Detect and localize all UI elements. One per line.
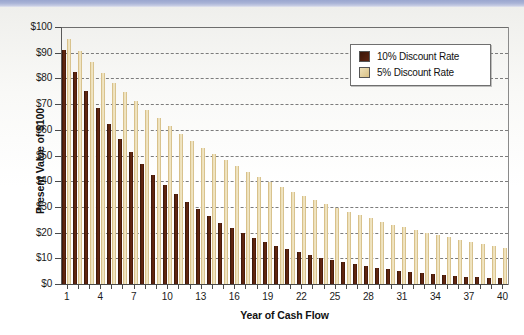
y-axis-tick-label: $0 [12,278,52,289]
bar-10-percent-year-12 [185,202,189,284]
bar-5-percent-year-19 [268,182,272,284]
legend-label-10-percent: 10% Discount Rate [377,51,459,62]
bar-5-percent-year-26 [347,212,351,284]
legend-item-5-percent: 5% Discount Rate [359,66,454,79]
bar-5-percent-year-40 [503,248,507,284]
bar-10-percent-year-24 [319,258,323,284]
bar-10-percent-year-21 [285,249,289,284]
bar-10-percent-year-11 [174,194,178,284]
plot-right-edge [508,27,509,285]
bar-10-percent-year-39 [487,278,491,284]
bar-10-percent-year-3 [84,91,88,284]
bar-10-percent-year-15 [218,223,222,284]
bar-5-percent-year-11 [179,134,183,284]
bar-5-percent-year-4 [101,73,105,285]
bar-5-percent-year-35 [447,237,451,284]
x-axis-title: Year of Cash Flow [61,309,508,321]
bar-5-percent-year-20 [280,187,284,284]
bar-10-percent-year-35 [442,275,446,284]
bar-5-percent-year-17 [246,172,250,284]
bar-10-percent-year-34 [431,274,435,284]
bar-5-percent-year-13 [201,148,205,284]
x-axis-tick-label: 7 [122,291,146,302]
bar-5-percent-year-15 [224,160,228,284]
bar-10-percent-year-2 [73,72,77,284]
bar-5-percent-year-36 [458,240,462,284]
y-axis-tick-label: $80 [12,72,52,83]
bar-5-percent-year-7 [134,101,138,284]
bar-10-percent-year-19 [263,242,267,284]
legend-swatch-icon-10-percent [359,51,370,62]
x-axis-tick-label: 31 [390,291,414,302]
bar-10-percent-year-1 [62,50,66,284]
bar-5-percent-year-29 [380,222,384,284]
bar-10-percent-year-37 [464,277,468,284]
bar-10-percent-year-4 [96,108,100,284]
bar-10-percent-year-16 [230,228,234,284]
bar-5-percent-year-14 [212,154,216,284]
y-axis-tick-label: $40 [12,175,52,186]
x-axis-tick-label: 22 [289,291,313,302]
bar-10-percent-year-20 [274,246,278,284]
bar-5-percent-year-28 [369,218,373,284]
x-axis-tick-label: 13 [189,291,213,302]
bar-5-percent-year-32 [414,230,418,284]
x-axis-tick-label: 10 [155,291,179,302]
x-axis-tick-label: 28 [356,291,380,302]
bar-5-percent-year-16 [235,166,239,284]
bar-5-percent-year-22 [302,196,306,284]
bar-10-percent-year-38 [475,277,479,284]
bar-5-percent-year-10 [168,126,172,284]
bar-10-percent-year-26 [341,262,345,284]
bar-5-percent-year-33 [425,233,429,284]
bar-10-percent-year-31 [397,271,401,284]
bar-10-percent-year-10 [163,185,167,284]
bar-10-percent-year-5 [107,124,111,284]
bar-10-percent-year-27 [353,264,357,284]
bar-10-percent-year-23 [308,255,312,284]
bar-10-percent-year-32 [408,272,412,284]
bar-5-percent-year-24 [324,204,328,284]
bar-10-percent-year-17 [241,233,245,284]
bar-5-percent-year-1 [67,39,71,284]
bar-5-percent-year-8 [145,110,149,284]
bar-10-percent-year-14 [207,216,211,284]
bar-5-percent-year-5 [112,83,116,284]
bar-5-percent-year-6 [123,92,127,284]
bar-10-percent-year-9 [151,175,155,284]
y-axis-tick-label: $10 [12,252,52,263]
bar-5-percent-year-12 [190,141,194,284]
bar-5-percent-year-30 [391,225,395,284]
bar-5-percent-year-31 [402,227,406,284]
bar-10-percent-year-29 [375,268,379,284]
bar-5-percent-year-34 [436,235,440,284]
x-axis-tick-label: 19 [256,291,280,302]
legend-label-5-percent: 5% Discount Rate [377,67,454,78]
present-value-bar-chart: Present Value of $100 $100$90$80$70$60$5… [0,0,524,335]
x-axis-tick-label: 25 [323,291,347,302]
y-axis-tick-label: $30 [12,201,52,212]
x-axis-tick-label: 4 [88,291,112,302]
bar-5-percent-year-23 [313,200,317,284]
bar-5-percent-year-27 [358,215,362,284]
y-axis-tick-label: $100 [12,21,52,32]
bar-10-percent-year-40 [498,278,502,284]
bar-10-percent-year-7 [129,152,133,284]
x-axis-line [61,284,509,285]
y-axis-tick-label: $70 [12,98,52,109]
bar-10-percent-year-33 [420,273,424,284]
bar-10-percent-year-8 [140,164,144,284]
bar-10-percent-year-6 [118,139,122,284]
chart-legend: 10% Discount Rate 5% Discount Rate [350,44,491,86]
bar-5-percent-year-9 [157,118,161,284]
bar-5-percent-year-37 [469,242,473,284]
legend-item-10-percent: 10% Discount Rate [359,50,459,63]
bar-5-percent-year-25 [335,208,339,284]
bar-10-percent-year-36 [453,276,457,284]
y-axis-tick-label: $50 [12,150,52,161]
bar-5-percent-year-38 [481,244,485,284]
bar-10-percent-year-22 [297,252,301,284]
bar-5-percent-year-39 [492,246,496,284]
bar-5-percent-year-3 [90,62,94,284]
x-axis-tick-label: 37 [457,291,481,302]
